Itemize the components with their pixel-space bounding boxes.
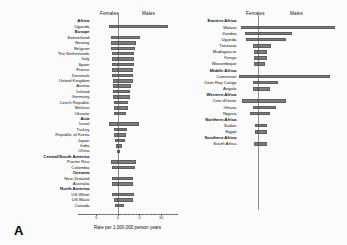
bar-male: [118, 57, 134, 61]
x-tick-minor: [92, 214, 93, 215]
group-label: Eastern Africa: [208, 18, 237, 24]
bar-row: Austria: [92, 84, 174, 89]
bar-male: [118, 133, 126, 137]
bar-row: Colombia: [92, 165, 174, 170]
category-label: Egypt: [226, 129, 237, 135]
x-tick-minor: [127, 214, 128, 215]
panel-b: Females Males Eastern AfricaMalawiZambia…: [178, 0, 347, 245]
bar-male: [118, 74, 133, 78]
figure-canvas: Females Males AfricaUgandaEuropeSwitzerl…: [0, 0, 347, 245]
bar-row: Uganda: [92, 24, 174, 29]
bar-male: [118, 79, 133, 83]
bar-row: Turkey: [92, 127, 174, 132]
bar-male: [258, 106, 275, 110]
bar-group-row: Eastern Africa: [239, 19, 341, 24]
bar-female: [239, 75, 258, 79]
panel-a: Females Males AfricaUgandaEuropeSwitzerl…: [0, 0, 178, 245]
bar-female: [109, 122, 118, 126]
bar-row: Australia: [92, 182, 174, 187]
bar-male: [118, 47, 135, 51]
category-label: Dem Rep Congo: [204, 80, 236, 86]
x-tick-minor: [174, 214, 175, 215]
bar-male: [118, 128, 127, 132]
bar-group-row: Central/South America: [92, 155, 174, 160]
bar-female: [246, 38, 258, 42]
category-label: Ghana: [224, 105, 237, 111]
x-tick-minor: [135, 214, 136, 215]
bar-row: Cote d'Ivoire: [239, 99, 341, 104]
bar-male: [118, 139, 125, 143]
bar-male: [258, 142, 267, 146]
bar-row: Ireland: [92, 89, 174, 94]
bar-group-row: Southern Africa: [239, 136, 341, 141]
bar-male: [118, 204, 124, 208]
bar-male: [258, 26, 335, 30]
bar-female: [242, 99, 258, 103]
bar-group-row: Africa: [92, 19, 174, 24]
females-header-a: Females: [100, 12, 119, 17]
bar-group-row: Middle Africa: [239, 68, 341, 73]
bar-row: US Black: [92, 198, 174, 203]
category-label: Tanzania: [219, 43, 236, 49]
category-label: Nigeria: [223, 111, 237, 117]
bar-male: [118, 90, 131, 94]
category-label: Mozambique: [212, 61, 237, 67]
bar-rows-b: Eastern AfricaMalawiZambiaUgandaTanzania…: [239, 19, 341, 204]
bar-group-row: Oceania: [92, 171, 174, 176]
category-label: Cameroon: [216, 74, 236, 80]
category-label: Canada: [74, 203, 89, 209]
bar-male: [118, 41, 136, 45]
bar-male: [258, 124, 267, 128]
x-tick-minor: [170, 214, 171, 215]
x-tick-minor: [109, 214, 110, 215]
bar-male: [118, 122, 140, 126]
bar-male: [118, 95, 130, 99]
x-tick-minor: [157, 214, 158, 215]
category-label: Cote d'Ivoire: [213, 98, 237, 104]
bar-row: Switzerland: [92, 35, 174, 40]
bar-row: New Zealand: [92, 176, 174, 181]
bar-male: [118, 193, 134, 197]
bar-male: [118, 160, 136, 164]
bar-row: United Kingdom: [92, 79, 174, 84]
bar-rows-a: AfricaUgandaEuropeSwitzerlandNorwayBelgi…: [92, 19, 174, 209]
bar-row: Uganda: [239, 37, 341, 42]
panel-letter-a: A: [14, 224, 23, 237]
category-label: South Africa: [213, 141, 236, 147]
bar-male: [118, 68, 134, 72]
plot-area-b: Eastern AfricaMalawiZambiaUgandaTanzania…: [239, 19, 341, 204]
bar-row: Spain: [92, 62, 174, 67]
bar-female: [111, 47, 117, 51]
x-tick-label: 5: [138, 217, 140, 221]
bar-male: [258, 38, 286, 42]
bar-male: [118, 101, 128, 105]
bar-row: Japan: [92, 138, 174, 143]
bar-female: [245, 32, 258, 36]
bar-male: [258, 62, 264, 66]
bar-group-row: Western Africa: [239, 93, 341, 98]
bar-row: Malawi: [239, 25, 341, 30]
bar-male: [258, 32, 292, 36]
bar-row: Zambia: [239, 31, 341, 36]
x-tick-minor: [122, 214, 123, 215]
bar-row: Mozambique: [239, 62, 341, 67]
bar-row: Cameroon: [239, 74, 341, 79]
bar-male: [118, 144, 122, 148]
bar-male: [118, 112, 126, 116]
bar-male: [118, 52, 134, 56]
bar-male: [118, 106, 128, 110]
bar-male: [258, 112, 269, 116]
bar-male: [258, 75, 330, 79]
bar-row: South Africa: [239, 142, 341, 147]
bar-male: [258, 44, 271, 48]
x-tick-minor: [105, 214, 106, 215]
x-tick-minor: [148, 214, 149, 215]
group-label: Southern Africa: [204, 135, 236, 141]
category-label: Uganda: [221, 37, 236, 43]
bar-male: [118, 182, 134, 186]
bar-row: Puerto Rico: [92, 160, 174, 165]
bar-male: [118, 150, 120, 154]
bar-row: India: [92, 144, 174, 149]
group-label: Northern Africa: [205, 117, 236, 123]
x-tick-minor: [131, 214, 132, 215]
